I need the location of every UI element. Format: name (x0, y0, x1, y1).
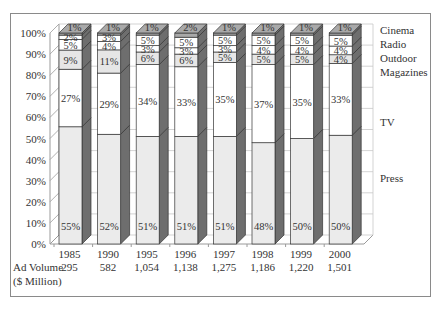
segment-label: 4% (295, 45, 309, 56)
segment-label: 1% (261, 22, 275, 33)
bar-1997: 51%35%5%3%5%1% (213, 22, 245, 244)
segment-label: 35% (215, 94, 235, 105)
x-axis: 1985295199058219951,05419961,13819971,27… (54, 244, 352, 273)
x-tick-label: 1996 (174, 248, 197, 260)
ad-volume-value: 582 (100, 261, 117, 273)
bar-1990: 52%29%11%4%3%1% (98, 22, 130, 244)
segment-label: 29% (99, 99, 119, 110)
y-tick-label: 50% (26, 133, 46, 145)
bar-1995: 51%34%6%3%5%1% (136, 22, 168, 244)
segment-label: 51% (138, 221, 158, 232)
x-tick-label: 1995 (136, 248, 159, 260)
ad-volume-value: 1,186 (250, 261, 275, 273)
legend-cinema: Cinema (380, 24, 414, 36)
y-tick-label: 80% (26, 69, 46, 81)
ad-volume-label: Ad Volume (13, 261, 63, 273)
bar-1999: 50%35%5%4%5%1% (291, 22, 323, 244)
bar-1998: 48%37%5%4%5%1% (252, 22, 284, 244)
segment-label: 11% (100, 56, 119, 67)
segment-label: 33% (331, 94, 351, 105)
segment-label: 50% (292, 221, 312, 232)
segment-label: 34% (138, 96, 158, 107)
segment-label: 2% (64, 32, 78, 43)
segment-label: 5% (218, 35, 232, 46)
segment-label: 1% (68, 22, 82, 33)
ad-volume-value: 1,501 (327, 261, 352, 273)
segment-label: 51% (177, 221, 197, 232)
segment-label: 1% (338, 22, 352, 33)
y-tick-label: 60% (26, 111, 46, 123)
segment-label: 52% (99, 221, 119, 232)
y-tick-label: 70% (26, 90, 46, 102)
segment-label: 1% (299, 22, 313, 33)
y-tick-label: 20% (26, 196, 46, 208)
y-tick-label: 10% (26, 217, 46, 229)
segment-label: 48% (254, 221, 274, 232)
x-tick-label: 2000 (329, 248, 352, 260)
bars: 55%27%9%5%2%1%52%29%11%4%3%1%51%34%6%3%5… (59, 22, 361, 244)
ad-volume-unit-label: ($ Million) (13, 275, 62, 288)
segment-label: 4% (334, 45, 348, 56)
segment-label: 35% (292, 97, 312, 108)
ad-volume-value: 1,220 (289, 261, 314, 273)
y-tick-label: 90% (26, 48, 46, 60)
segment-label: 55% (61, 221, 81, 232)
segment-label: 5% (295, 35, 309, 46)
y-tick-label: 40% (26, 154, 46, 166)
y-tick-label: 100% (20, 27, 46, 39)
x-tick-label: 1985 (59, 248, 82, 260)
segment-label: 1% (145, 22, 159, 33)
segment-label: 51% (215, 221, 235, 232)
ad-volume-value: 295 (61, 261, 78, 273)
stacked-bar-chart: 0%10%20%30%40%50%60%70%80%90%100% 55%27%… (0, 0, 443, 310)
y-tick-label: 0% (31, 238, 46, 250)
segment-label: 2% (183, 22, 197, 33)
segment-label: 5% (141, 35, 155, 46)
segment-label: 1% (106, 22, 120, 33)
segment-label: 5% (179, 37, 193, 48)
segment-label: 27% (61, 93, 81, 104)
segment-label: 3% (102, 32, 116, 43)
segment-label: 37% (254, 99, 274, 110)
ad-volume-value: 1,054 (134, 261, 159, 273)
legend-outdoor: Outdoor (380, 52, 417, 64)
segment-label: 33% (177, 97, 197, 108)
legend: CinemaRadioOutdoorMagazinesTVPress (380, 24, 428, 184)
y-axis: 0%10%20%30%40%50%60%70%80%90%100% (20, 27, 46, 250)
segment-label: 4% (257, 45, 271, 56)
segment-label: 9% (64, 55, 78, 66)
x-tick-label: 1990 (97, 248, 120, 260)
segment-label: 5% (334, 36, 348, 47)
segment-label: 1% (222, 22, 236, 33)
legend-tv: TV (380, 116, 395, 128)
bar-2000: 50%33%4%4%5%1% (329, 22, 361, 244)
legend-press: Press (380, 172, 403, 184)
ad-volume-value: 1,138 (173, 261, 198, 273)
x-tick-label: 1997 (213, 248, 236, 260)
segment-label: 5% (257, 35, 271, 46)
segment-label: 5% (257, 54, 271, 65)
bar-1996: 51%33%6%3%5%2% (175, 22, 207, 244)
segment-label: 6% (179, 55, 193, 66)
segment-label: 6% (141, 53, 155, 64)
bar-1985: 55%27%9%5%2%1% (59, 22, 91, 244)
segment-label: 50% (331, 221, 351, 232)
legend-radio: Radio (380, 38, 407, 50)
legend-magazines: Magazines (380, 66, 428, 78)
x-tick-label: 1998 (252, 248, 275, 260)
x-tick-label: 1999 (290, 248, 313, 260)
y-tick-label: 30% (26, 175, 46, 187)
segment-label: 5% (295, 54, 309, 65)
ad-volume-value: 1,275 (212, 261, 237, 273)
